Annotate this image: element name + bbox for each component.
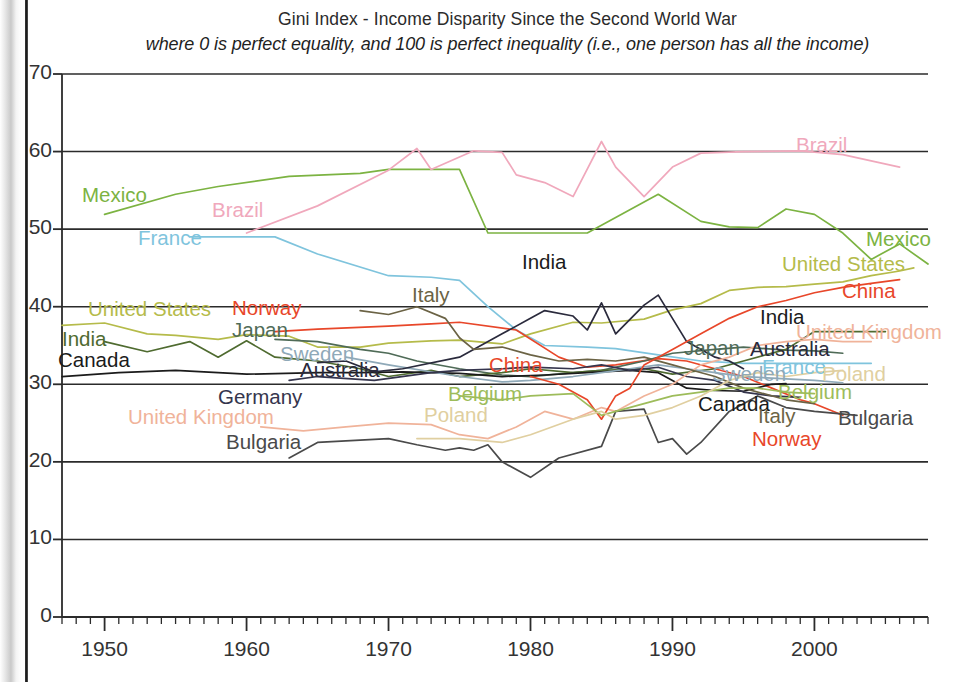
mexico-label-right: Mexico [866, 227, 931, 251]
y-tick-label-40: 40 [8, 293, 52, 317]
x-tick-label-1980: 1980 [485, 637, 575, 661]
x-tick-label-1970: 1970 [344, 637, 434, 661]
canada-label-left: Canada [58, 348, 130, 372]
y-tick-label-30: 30 [8, 370, 52, 394]
united-states-label-left: United States [88, 297, 211, 321]
brazil-label-right: Brazil [796, 133, 847, 157]
mexico-label-left: Mexico [82, 183, 147, 207]
belgium-label-right: Belgium [778, 380, 852, 404]
united-states-label-right: United States [782, 252, 905, 276]
australia-label-left: Australia [300, 358, 380, 382]
brazil-label-left: Brazil [212, 198, 263, 222]
bulgaria-label-left: Bulgaria [226, 430, 301, 454]
italy-label-right: Italy [758, 404, 796, 428]
y-tick-label-20: 20 [8, 448, 52, 472]
y-tick-label-10: 10 [8, 525, 52, 549]
china-label-mid: China [489, 353, 543, 377]
india-label-mid: India [522, 250, 566, 274]
x-tick-label-2000: 2000 [769, 637, 859, 661]
bulgaria-label-right: Bulgaria [838, 406, 913, 430]
x-tick-label-1950: 1950 [60, 637, 150, 661]
united-kingdom-label-left: United Kingdom [128, 405, 274, 429]
poland-label-mid: Poland [424, 403, 488, 427]
y-tick-label-50: 50 [8, 215, 52, 239]
norway-label-right: Norway [752, 427, 822, 451]
china-label-right: China [842, 279, 896, 303]
x-tick-label-1960: 1960 [202, 637, 292, 661]
france-label-left: France [138, 226, 202, 250]
japan-label-left: Japan [232, 318, 288, 342]
japan-label-right: Japan [684, 336, 740, 360]
norway-label-left: Norway [232, 296, 302, 320]
sweden-label-right: Sweden [712, 362, 786, 386]
series-line-italy [360, 307, 814, 404]
chart-page: Gini Index - Income Disparity Since the … [0, 0, 962, 682]
x-tick-label-1990: 1990 [627, 637, 717, 661]
y-tick-label-0: 0 [8, 603, 52, 627]
y-tick-label-60: 60 [8, 138, 52, 162]
italy-label-mid: Italy [412, 283, 450, 307]
y-tick-label-70: 70 [8, 60, 52, 84]
